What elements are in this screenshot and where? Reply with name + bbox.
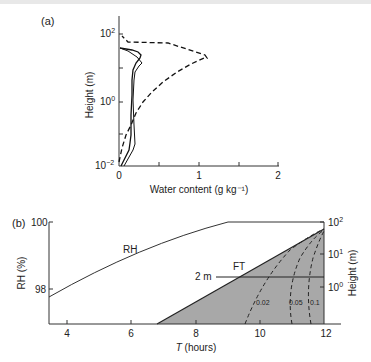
contour-label-0.1: 0.1 (310, 299, 320, 306)
two-m-annotation: 2 m (195, 271, 212, 282)
b-ytick-98: 98 (35, 284, 47, 295)
b-xtick-4: 4 (64, 328, 70, 339)
b-xlabel: T (hours) (176, 342, 217, 353)
figure: (a) 102 100 10−2 0 1 2 Water content (g … (0, 0, 371, 362)
ft-annotation: FT (233, 261, 245, 272)
a-xlabel: Water content (g kg⁻¹) (150, 184, 249, 195)
panel-b-label: (b) (12, 217, 25, 229)
b-xtick-6: 6 (128, 328, 134, 339)
b-ylabel-right: Height (m) (347, 250, 358, 297)
b-xtick-8: 8 (193, 328, 199, 339)
panel-a-label: (a) (41, 15, 54, 27)
contour-label-0.02: 0.02 (256, 299, 270, 306)
a-ytick-0.01: 10−2 (95, 159, 114, 171)
a-xtick-0: 0 (116, 170, 122, 181)
a-xtick-1: 1 (196, 170, 202, 181)
a-ytick-100: 102 (100, 27, 115, 39)
contour-label-0.05: 0.05 (289, 299, 303, 306)
b-xtick-10: 10 (254, 328, 266, 339)
rh-annotation: RH (123, 244, 137, 255)
b-xtick-12: 12 (320, 328, 332, 339)
b-ylabel-left: RH (%) (16, 257, 27, 290)
b-rtick-100: 102 (328, 216, 343, 228)
a-series-solid-1 (120, 48, 141, 166)
b-rtick-1: 100 (328, 281, 343, 293)
a-ytick-1: 100 (100, 95, 115, 107)
b-rtick-10: 101 (328, 248, 343, 260)
a-xtick-2: 2 (275, 170, 281, 181)
b-ytick-100: 100 (31, 217, 48, 228)
panel-a: (a) 102 100 10−2 0 1 2 Water content (g … (41, 15, 281, 195)
panel-b: (b) 100 98 102 101 100 (12, 216, 358, 353)
a-ylabel: Height (m) (84, 72, 95, 119)
